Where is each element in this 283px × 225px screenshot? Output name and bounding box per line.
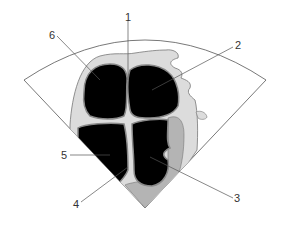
label-6: 6 [49, 30, 55, 41]
label-5: 5 [61, 150, 67, 161]
chamber-5 [78, 123, 128, 186]
label-2: 2 [235, 40, 241, 51]
label-1: 1 [125, 12, 131, 23]
chamber-6 [84, 64, 127, 119]
diagram-canvas: 1 2 3 4 5 6 [0, 0, 283, 225]
label-3: 3 [234, 193, 240, 204]
chamber-3 [132, 119, 170, 186]
heart-sector-illustration [0, 0, 283, 225]
label-4: 4 [73, 199, 79, 210]
